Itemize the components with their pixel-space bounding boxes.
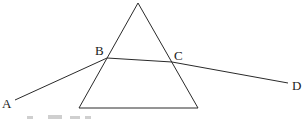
label-b: B — [95, 43, 104, 58]
prism-diagram: A B C D — [0, 0, 304, 119]
label-d: D — [292, 78, 301, 93]
cropped-caption-fragment — [27, 115, 91, 119]
incident-ray-ab — [15, 58, 107, 100]
label-c: C — [174, 48, 183, 63]
label-a: A — [2, 96, 12, 111]
refracted-ray-bc — [107, 58, 172, 62]
emergent-ray-cd — [172, 62, 288, 83]
